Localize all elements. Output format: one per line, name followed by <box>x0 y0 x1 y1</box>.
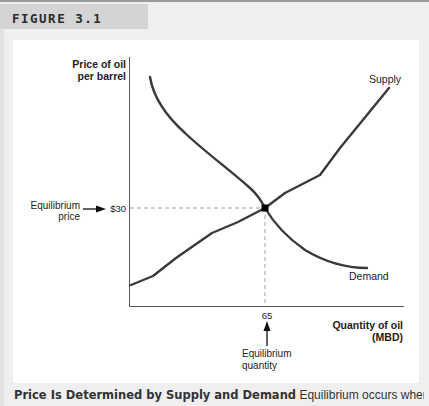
eq-qty-label-2: quantity <box>242 360 277 371</box>
figure-caption: Price Is Determined by Supply and Demand… <box>14 388 424 402</box>
eq-price-arrow-icon <box>96 206 106 213</box>
supply-label: Supply <box>369 73 402 85</box>
eq-qty-label-1: Equilibrium <box>242 348 291 359</box>
caption-text: Equilibrium occurs when the <box>299 388 424 402</box>
eq-qty-arrow-icon <box>264 321 271 331</box>
x-axis-label-2: (MBD) <box>372 331 403 343</box>
eq-price-label-2: price <box>58 211 80 222</box>
y-axis-label-1: Price of oil <box>72 58 126 70</box>
demand-label: Demand <box>349 270 389 282</box>
y-tick-label: $30 <box>110 203 126 214</box>
eq-price-label-1: Equilibrium <box>31 200 80 211</box>
x-axis-label-1: Quantity of oil <box>332 319 403 331</box>
x-tick-label: 65 <box>262 310 273 321</box>
equilibrium-point <box>262 205 269 212</box>
supply-demand-chart: Price of oil per barrel $30 Equilibrium … <box>0 0 429 406</box>
demand-curve <box>150 77 367 268</box>
caption-title: Price Is Determined by Supply and Demand <box>14 388 296 402</box>
y-axis-label-2: per barrel <box>78 70 127 82</box>
